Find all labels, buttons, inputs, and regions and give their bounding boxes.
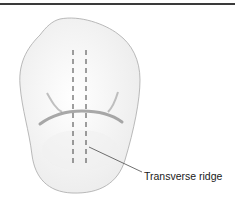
- transverse-ridge-label: Transverse ridge: [144, 170, 222, 182]
- buccal-cusp-shade: [42, 130, 118, 170]
